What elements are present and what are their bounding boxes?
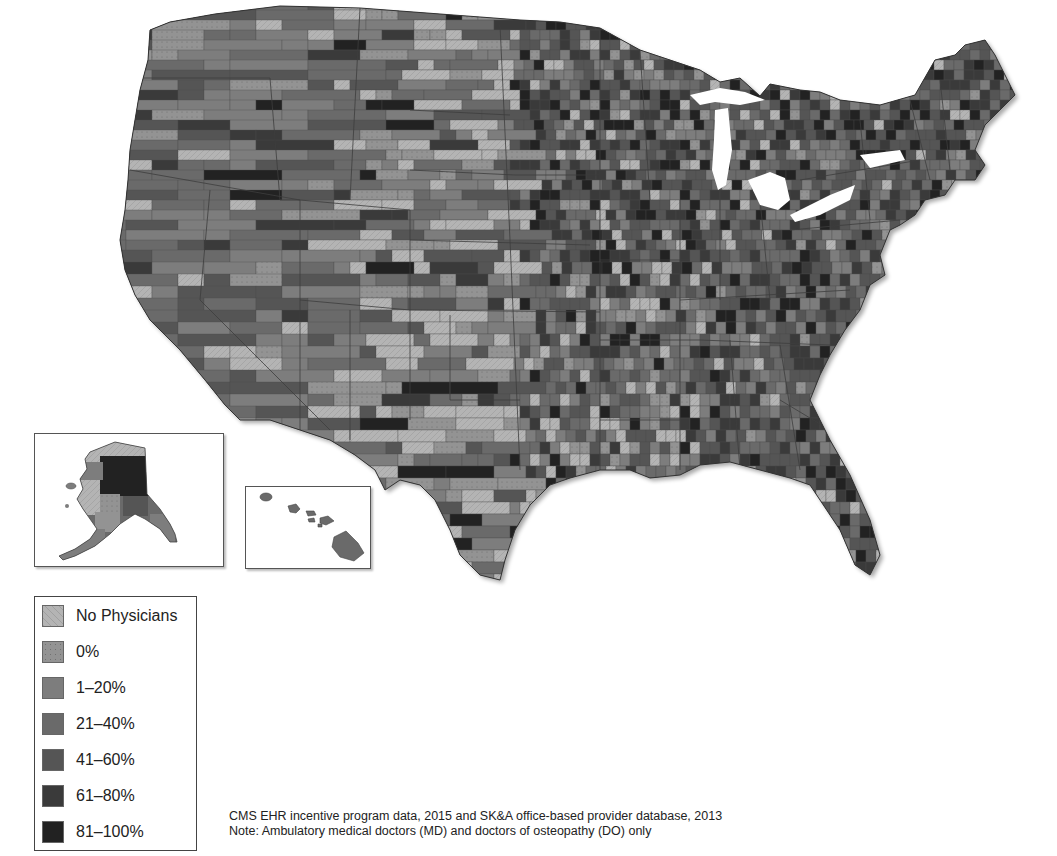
legend-item-0-percent: 0% bbox=[42, 639, 99, 665]
legend-item-61-80-percent: 61–80% bbox=[42, 783, 135, 809]
alaska-map bbox=[35, 434, 223, 566]
legend-swatch bbox=[42, 641, 64, 663]
legend-label: 41–60% bbox=[76, 751, 135, 769]
legend-label: 21–40% bbox=[76, 715, 135, 733]
hawaii-map bbox=[246, 487, 370, 568]
legend-label: No Physicians bbox=[76, 607, 177, 625]
legend-swatch bbox=[42, 605, 64, 627]
legend-item-21-40-percent: 21–40% bbox=[42, 711, 135, 737]
legend-swatch bbox=[42, 749, 64, 771]
legend-item-41-60-percent: 41–60% bbox=[42, 747, 135, 773]
source-note: CMS EHR incentive program data, 2015 and… bbox=[229, 809, 722, 824]
physician-type-note: Note: Ambulatory medical doctors (MD) an… bbox=[229, 824, 722, 839]
map-legend: No Physicians 0% 1–20% 21–40% 41–60% 61–… bbox=[34, 596, 197, 851]
county-cells bbox=[100, 0, 1046, 600]
legend-swatch bbox=[42, 785, 64, 807]
legend-swatch bbox=[42, 821, 64, 843]
legend-label: 1–20% bbox=[76, 679, 126, 697]
legend-item-1-20-percent: 1–20% bbox=[42, 675, 126, 701]
legend-swatch bbox=[42, 713, 64, 735]
legend-swatch bbox=[42, 677, 64, 699]
legend-label: 81–100% bbox=[76, 823, 144, 841]
alaska-inset bbox=[34, 433, 224, 567]
legend-label: 0% bbox=[76, 643, 99, 661]
legend-item-81-100-percent: 81–100% bbox=[42, 819, 144, 845]
us-county-map bbox=[0, 0, 1057, 600]
map-caption: CMS EHR incentive program data, 2015 and… bbox=[229, 809, 722, 839]
legend-item-no-physicians: No Physicians bbox=[42, 603, 177, 629]
hawaii-inset bbox=[245, 486, 371, 569]
legend-label: 61–80% bbox=[76, 787, 135, 805]
